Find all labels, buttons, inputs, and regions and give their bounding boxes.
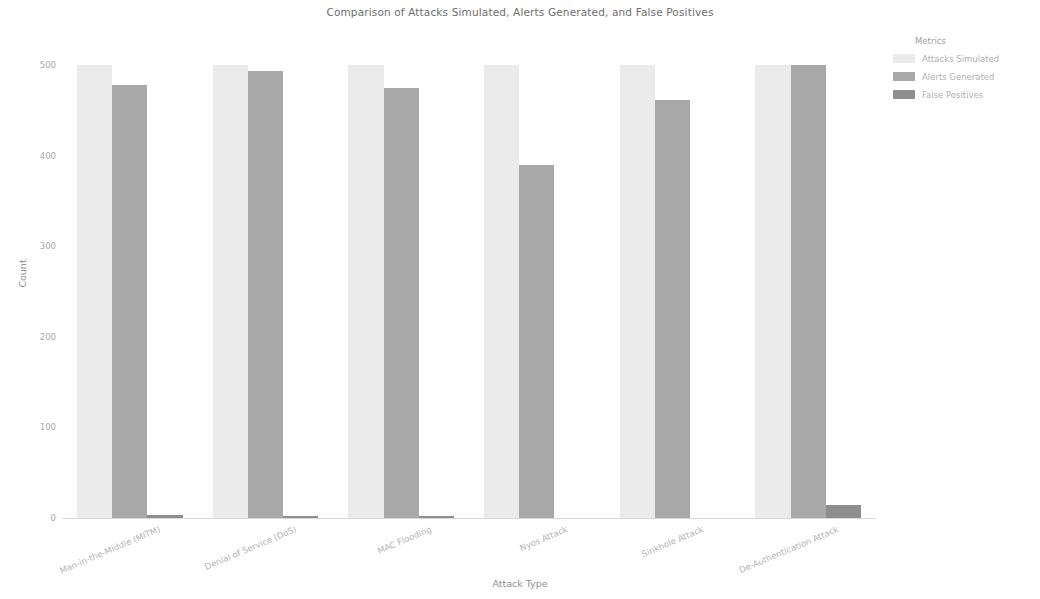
legend-entry[interactable]: Attacks Simulated — [893, 52, 1033, 65]
bar — [484, 65, 519, 518]
bar — [213, 65, 248, 518]
legend-entries: Attacks SimulatedAlerts GeneratedFalse P… — [893, 52, 1033, 101]
bar — [826, 505, 861, 518]
legend-swatch-icon — [893, 54, 915, 63]
chart-legend: Metrics Attacks SimulatedAlerts Generate… — [893, 36, 1033, 106]
y-tick-label: 500 — [10, 60, 56, 70]
bar — [655, 100, 690, 518]
y-tick-label: 0 — [10, 513, 56, 523]
bar — [348, 65, 383, 518]
bar-group — [755, 47, 861, 518]
chart-title: Comparison of Attacks Simulated, Alerts … — [0, 6, 1040, 18]
bar — [248, 71, 283, 518]
bar — [112, 85, 147, 518]
x-tick-label: Sinkhole Attack — [640, 524, 705, 559]
x-tick-label: Man-in-the-Middle (MITM) — [58, 524, 162, 576]
y-tick-label: 100 — [10, 422, 56, 432]
bar — [519, 165, 554, 518]
legend-entry[interactable]: Alerts Generated — [893, 70, 1033, 83]
y-tick-label: 200 — [10, 332, 56, 342]
legend-entry[interactable]: False Positives — [893, 88, 1033, 101]
legend-title: Metrics — [915, 36, 1033, 46]
bar — [755, 65, 790, 518]
y-tick-label: 400 — [10, 151, 56, 161]
x-tick-label: De-Authentication Attack — [738, 524, 840, 575]
x-axis-line — [62, 518, 876, 519]
bar-group — [213, 47, 319, 518]
bar — [77, 65, 112, 518]
x-tick-label: MAC Flooding — [376, 524, 433, 556]
bar-group — [620, 47, 726, 518]
x-tick-label: Denial of Service (DoS) — [203, 524, 298, 572]
y-tick-label: 300 — [10, 241, 56, 251]
legend-label: Alerts Generated — [922, 72, 994, 82]
x-axis-label: Attack Type — [0, 578, 1040, 589]
bar — [620, 65, 655, 518]
y-axis-ticks: 0100200300400500 — [6, 0, 56, 599]
bar — [384, 88, 419, 518]
plot-area — [62, 47, 876, 518]
chart-figure: Comparison of Attacks Simulated, Alerts … — [0, 0, 1040, 599]
legend-label: False Positives — [922, 90, 983, 100]
bar-group — [77, 47, 183, 518]
legend-label: Attacks Simulated — [922, 54, 999, 64]
bar-group — [348, 47, 454, 518]
bar — [791, 65, 826, 518]
legend-swatch-icon — [893, 90, 915, 99]
x-tick-label: Nyos Attack — [518, 524, 569, 553]
legend-swatch-icon — [893, 72, 915, 81]
bar-group — [484, 47, 590, 518]
